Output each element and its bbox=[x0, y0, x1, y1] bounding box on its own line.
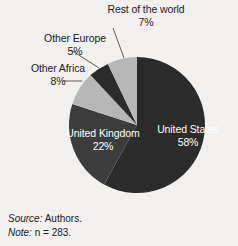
slice-label-united-states-name: United States bbox=[157, 123, 219, 135]
slice-label-other-europe-value: 5% bbox=[20, 45, 130, 58]
footnote-source-text: Authors. bbox=[45, 213, 82, 224]
footnote-source: Source: Authors. bbox=[8, 212, 82, 226]
slice-label-united-states-value: 58% bbox=[148, 136, 228, 149]
figure-footnotes: Source: Authors. Note: n = 283. bbox=[8, 212, 82, 240]
slice-label-other-europe: Other Europe 5% bbox=[20, 32, 130, 57]
footnote-source-prefix: Source: bbox=[8, 213, 42, 224]
slice-label-united-kingdom-name: United Kingdom bbox=[66, 127, 139, 139]
slice-label-united-states: United States 58% bbox=[148, 123, 228, 148]
slice-label-other-africa-name: Other Africa bbox=[31, 62, 85, 74]
slice-label-united-kingdom: United Kingdom 22% bbox=[50, 127, 156, 152]
slice-label-other-africa: Other Africa 8% bbox=[6, 62, 110, 87]
footnote-note: Note: n = 283. bbox=[8, 226, 82, 240]
slice-label-other-europe-name: Other Europe bbox=[44, 32, 106, 44]
slice-label-united-kingdom-value: 22% bbox=[50, 140, 156, 153]
slice-label-rest-of-the-world: Rest of the world 7% bbox=[86, 3, 206, 28]
footnote-note-text: n = 283. bbox=[35, 227, 71, 238]
slice-label-rest-of-the-world-value: 7% bbox=[86, 16, 206, 29]
slice-label-rest-of-the-world-name: Rest of the world bbox=[107, 3, 184, 15]
footnote-note-prefix: Note: bbox=[8, 227, 32, 238]
slice-label-other-africa-value: 8% bbox=[6, 75, 110, 88]
pie-chart-figure: Rest of the world 7% Other Europe 5% Oth… bbox=[0, 0, 238, 246]
